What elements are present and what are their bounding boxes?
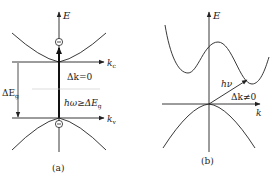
k-axis-label-b: k [256, 108, 261, 118]
energy-axis-label-a: E [62, 10, 71, 21]
conduction-band-b [165, 25, 269, 84]
panel-b-indirect-gap: E k hν Δk≠0 (b) [162, 10, 269, 166]
photon-label-b: hν [221, 79, 233, 89]
panel-a-direct-gap: E kc ΔEg Δk=0 hω≥ΔEg kv (a) [2, 10, 116, 173]
kc-axis-label: kc [107, 58, 116, 69]
caption-b: (b) [201, 156, 214, 166]
gap-label: ΔEg [2, 88, 19, 100]
caption-a: (a) [52, 163, 64, 173]
momentum-label-b: Δk≠0 [231, 92, 256, 102]
photon-energy-label-a: hω≥ΔEg [64, 98, 102, 110]
energy-axis-label-b: E [212, 10, 221, 21]
kv-axis-label: kv [107, 114, 116, 125]
momentum-label-a: Δk=0 [67, 72, 92, 82]
band-structure-diagram: E kc ΔEg Δk=0 hω≥ΔEg kv (a) E [0, 0, 279, 181]
